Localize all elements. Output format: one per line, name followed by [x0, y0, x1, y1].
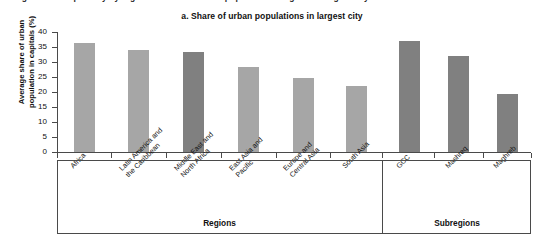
x-tick	[111, 153, 112, 158]
x-tick	[221, 153, 222, 158]
y-tick-20	[52, 92, 57, 93]
y-tick-25	[52, 77, 57, 78]
x-tick	[382, 153, 383, 158]
bar	[74, 43, 95, 153]
y-tick-label-25: 25	[7, 72, 47, 81]
x-tick	[330, 153, 331, 158]
y-tick-15	[52, 107, 57, 108]
y-axis-line	[57, 32, 58, 153]
group-label-regions: Regions	[57, 218, 382, 228]
bar-chart-figure: a. Share of urban populations in largest…	[0, 0, 544, 252]
bar	[399, 41, 420, 152]
y-tick-35	[52, 47, 57, 48]
y-tick-label-20: 20	[7, 87, 47, 96]
x-tick	[434, 153, 435, 158]
group-label-subregions: Subregions	[383, 218, 531, 228]
y-tick-40	[52, 32, 57, 33]
y-tick-label-15: 15	[7, 102, 47, 111]
y-tick-label-5: 5	[7, 132, 47, 141]
y-tick-label-40: 40	[7, 27, 47, 36]
bar	[448, 56, 469, 152]
chart-title: a. Share of urban populations in largest…	[0, 11, 544, 21]
x-tick	[57, 153, 58, 158]
y-tick-10	[52, 122, 57, 123]
x-tick	[276, 153, 277, 158]
y-tick-5	[52, 137, 57, 138]
y-tick-label-0: 0	[7, 147, 47, 156]
y-tick-label-10: 10	[7, 117, 47, 126]
y-tick-label-30: 30	[7, 57, 47, 66]
y-tick-label-35: 35	[7, 42, 47, 51]
x-tick	[483, 153, 484, 158]
bar	[497, 94, 518, 152]
y-tick-30	[52, 62, 57, 63]
x-tick	[531, 153, 532, 158]
x-tick	[166, 153, 167, 158]
